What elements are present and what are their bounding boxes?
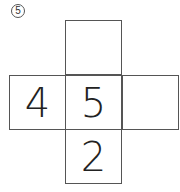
net-cell-bottom: 2 [65, 129, 122, 184]
net-cell-right [122, 75, 179, 130]
net-cell-top [65, 20, 122, 75]
net-cell-left: 4 [9, 75, 66, 130]
net-cell-center: 5 [65, 75, 122, 130]
problem-number-label: ⑤ [11, 4, 25, 18]
